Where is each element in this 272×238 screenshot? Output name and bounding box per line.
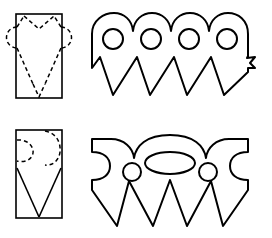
hole-circle-4: [217, 29, 237, 49]
figure-root: [0, 0, 272, 238]
hole-circle-right: [199, 163, 217, 181]
hole-circle-3: [179, 29, 199, 49]
hole-circle-1: [103, 29, 123, 49]
hole-circle-2: [141, 29, 161, 49]
hole-circle-left: [123, 163, 141, 181]
hole-ellipse-center: [145, 152, 195, 174]
paper-cutting-diagram: [0, 0, 272, 238]
